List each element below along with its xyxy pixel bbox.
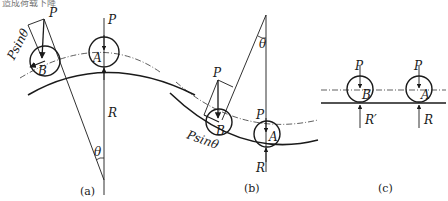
label-p-b: P: [48, 6, 58, 20]
label-b: B: [37, 64, 47, 78]
label-psin: Psinθ: [4, 26, 33, 63]
radial-line-b: [222, 15, 266, 120]
caption-a: (a): [80, 185, 95, 198]
panel-b: P P Psinθ B A R θ (b): [170, 15, 318, 195]
label-p-a: P: [107, 13, 117, 27]
label-theta-b: θ: [259, 37, 267, 51]
force-p-b-arrow: [42, 19, 44, 58]
panel-a: P P Psinθ B A R θ (a): [4, 6, 195, 198]
label-theta: θ: [94, 145, 102, 159]
parallelogram-side-a: [28, 25, 42, 58]
panel-c: P P B A R′ R (c): [321, 59, 446, 195]
label-r-prime: R′: [364, 113, 377, 127]
label-b-b: B: [215, 124, 225, 138]
label-p-b-c: P: [354, 59, 364, 73]
label-p-a-c: P: [413, 59, 423, 73]
label-a-b: A: [268, 130, 278, 144]
centerline-b: [176, 82, 318, 124]
caption-b: (b): [244, 182, 260, 195]
label-a-c: A: [420, 88, 430, 102]
force-diagram-figure: 造成荷载下降 P P Psinθ B A R θ (a): [0, 0, 448, 201]
label-r-b: R: [255, 161, 265, 175]
label-r: R: [107, 106, 117, 120]
label-b-c: B: [361, 88, 371, 102]
header-text: 造成荷载下降: [2, 0, 56, 8]
label-a: A: [92, 51, 102, 65]
label-p-a-b: P: [255, 108, 265, 122]
caption-c: (c): [378, 182, 393, 195]
parallelogram-top-a: [28, 19, 44, 25]
label-p-b-b: P: [212, 66, 222, 80]
parallelogram-top-b: [218, 80, 233, 87]
label-r-c: R: [423, 113, 433, 127]
track-surface-a: [28, 73, 195, 96]
